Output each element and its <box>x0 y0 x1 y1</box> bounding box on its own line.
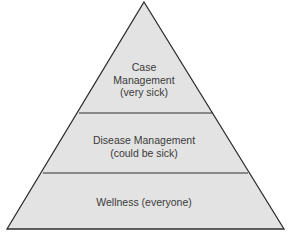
tier-bottom-line-1: Wellness (everyone) <box>0 196 288 209</box>
tier-middle-label: Disease Management (could be sick) <box>0 134 288 159</box>
tier-top-line-2: Management <box>0 74 288 87</box>
pyramid-shape <box>7 2 284 229</box>
tier-middle-line-2: (could be sick) <box>0 147 288 160</box>
tier-top-line-1: Case <box>0 61 288 74</box>
tier-bottom-label: Wellness (everyone) <box>0 196 288 209</box>
tier-middle-line-1: Disease Management <box>0 134 288 147</box>
tier-top-label: Case Management (very sick) <box>0 61 288 99</box>
tier-top-line-3: (very sick) <box>0 86 288 99</box>
